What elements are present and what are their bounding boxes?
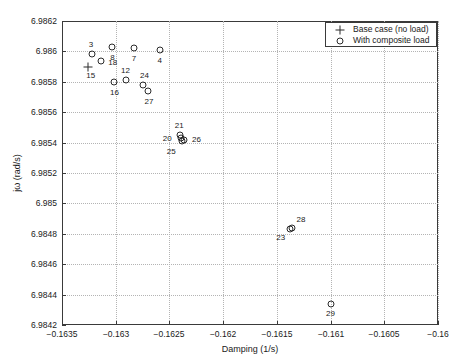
data-point-label-24: 24 [140,72,149,80]
y-axis-tick [62,51,66,52]
x-axis-tick [277,321,278,325]
y-axis-label: jω (rad/s) [12,154,22,192]
gridline-horizontal [62,203,438,204]
data-point-25 [179,138,186,145]
legend-label: Base case (no load) [353,25,429,34]
scatter-plot-figure: −0.1635−0.163−0.1625−0.162−0.1615−0.161−… [0,0,466,363]
x-axis-tick [169,321,170,325]
x-axis-tick-label: −0.163 [103,330,129,339]
data-point-label-29: 29 [326,310,335,318]
x-axis-tick-label: −0.16 [427,330,449,339]
y-axis-tick [62,295,66,296]
data-point-23 [286,226,293,233]
x-axis-tick [384,321,385,325]
gridline-horizontal [62,264,438,265]
y-axis-tick-label: 6.985 [4,199,57,208]
y-axis-tick-label: 6.9856 [4,108,57,117]
gridline-vertical [438,21,439,325]
data-point-label-18: 18 [108,59,117,67]
legend-entry-1: Base case (no load) [327,24,429,35]
data-point-label-12: 12 [121,67,130,75]
data-point-label-3: 3 [89,41,93,49]
data-point-29 [327,300,334,307]
legend-label: With composite load [353,36,430,45]
data-point-label-21: 21 [175,122,184,130]
data-point-8 [109,43,116,50]
data-point-label-23: 23 [276,234,285,242]
data-point-label-16: 16 [110,89,119,97]
x-axis-tick [331,321,332,325]
data-point-3 [89,51,96,58]
gridline-horizontal [62,82,438,83]
legend-entry-2: With composite load [327,35,430,46]
y-axis-tick [62,325,66,326]
x-axis-tick-label: −0.162 [210,330,236,339]
legend-marker-circle-icon [327,35,353,46]
data-point-label-25: 25 [167,148,176,156]
data-point-label-28: 28 [296,216,305,224]
y-axis-tick-label: 6.9842 [4,321,57,330]
y-axis-tick-label: 6.9844 [4,291,57,300]
data-point-label-20: 20 [163,135,172,143]
gridline-horizontal [62,112,438,113]
legend-plus-icon [336,25,345,34]
y-axis-tick [62,21,66,22]
y-axis-tick-label: 6.9858 [4,78,57,87]
data-point-27 [144,87,151,94]
gridline-horizontal [62,234,438,235]
data-point-7 [130,45,137,52]
y-axis-tick [62,112,66,113]
y-axis-tick [62,82,66,83]
x-axis-tick-label: −0.1615 [262,330,293,339]
y-axis-tick-label: 6.986 [4,47,57,56]
data-point-label-15: 15 [86,72,95,80]
x-axis-tick [438,321,439,325]
data-point-label-27: 27 [144,98,153,106]
y-axis-tick-label: 6.9846 [4,260,57,269]
y-axis-tick [62,173,66,174]
gridline-horizontal [62,143,438,144]
x-axis-label: Damping (1/s) [222,344,279,354]
y-axis-tick-label: 6.9854 [4,139,57,148]
x-axis-tick-label: −0.1625 [154,330,185,339]
gridline-horizontal [62,173,438,174]
data-point-label-4: 4 [158,57,162,65]
x-axis-tick-label: −0.1605 [369,330,400,339]
y-axis-tick [62,234,66,235]
x-axis-tick-label: −0.1635 [47,330,78,339]
y-axis-tick-label: 6.9862 [4,17,57,26]
gridline-horizontal [62,51,438,52]
legend-marker-plus-icon [327,24,353,35]
data-point-label-26: 26 [192,136,201,144]
y-axis-tick [62,143,66,144]
x-axis-tick [223,321,224,325]
y-axis-tick [62,203,66,204]
gridline-horizontal [62,295,438,296]
data-point-4 [156,46,163,53]
data-point-18 [97,57,104,64]
data-point-16 [110,78,117,85]
y-axis-tick-label: 6.9848 [4,230,57,239]
x-axis-tick-label: −0.161 [318,330,344,339]
data-point-label-7: 7 [132,55,136,63]
y-axis-tick [62,264,66,265]
legend-circle-icon [337,37,344,44]
data-point-12 [123,77,130,84]
x-axis-tick [116,321,117,325]
